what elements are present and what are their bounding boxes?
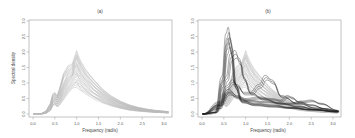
y-tick-label: 2.0: [21, 48, 26, 54]
x-tick-label: 1.0: [74, 121, 80, 126]
y-tick-label: 1.0: [21, 79, 26, 85]
panel-a-title: (a): [97, 9, 103, 14]
x-tick-label: 0.0: [30, 121, 36, 126]
y-tick-label: 3.0: [21, 17, 26, 23]
panel-b-title: (b): [265, 9, 271, 14]
x-tick-label: 2.5: [308, 121, 314, 126]
x-tick-label: 0.5: [52, 121, 58, 126]
x-tick-label: 2.0: [287, 121, 293, 126]
x-tick-label: 2.0: [118, 121, 124, 126]
panel-b-y-axis: 0.00.51.01.52.02.53.0: [190, 17, 199, 116]
x-tick-label: 1.0: [243, 121, 249, 126]
y-tick-label: 2.0: [190, 48, 195, 54]
panel-b: (b) 0.00.51.01.52.02.53.0 0.00.51.01.52.…: [190, 9, 342, 133]
y-tick-label: 2.5: [190, 33, 195, 39]
y-tick-label: 3.0: [190, 17, 195, 23]
panel-b-x-axis: 0.00.51.01.52.02.53.0: [199, 117, 336, 126]
panel-a: (a) 0.00.51.01.52.02.53.0 0.00.51.01.52.…: [11, 9, 172, 133]
y-tick-label: 0.0: [21, 110, 26, 116]
y-tick-label: 1.0: [190, 79, 195, 85]
figure: (a) 0.00.51.01.52.02.53.0 0.00.51.01.52.…: [0, 0, 355, 138]
x-tick-label: 3.0: [330, 121, 336, 126]
y-tick-label: 0.5: [21, 95, 26, 101]
x-tick-label: 0.5: [221, 121, 227, 126]
panel-a-curves: [33, 50, 168, 114]
panel-a-ylabel: Spectral density: [11, 51, 16, 84]
chart-canvas: (a) 0.00.51.01.52.02.53.0 0.00.51.01.52.…: [0, 0, 355, 138]
y-tick-label: 0.0: [190, 110, 195, 116]
x-tick-label: 1.5: [96, 121, 102, 126]
x-tick-label: 3.0: [161, 121, 167, 126]
panel-a-frame: [29, 20, 172, 117]
y-tick-label: 2.5: [21, 33, 26, 39]
x-tick-label: 0.0: [199, 121, 205, 126]
y-tick-label: 0.5: [190, 95, 195, 101]
x-tick-label: 2.5: [139, 121, 145, 126]
panel-a-xlabel: Frequency (rad/s): [82, 128, 118, 133]
x-tick-label: 1.5: [265, 121, 271, 126]
y-tick-label: 1.5: [21, 64, 26, 70]
gray-spectrum-curve: [33, 68, 168, 114]
panel-a-y-axis: 0.00.51.01.52.02.53.0: [21, 17, 30, 116]
gray-spectrum-curve: [33, 63, 168, 114]
panel-a-x-axis: 0.00.51.01.52.02.53.0: [30, 117, 167, 126]
y-tick-label: 1.5: [190, 64, 195, 70]
panel-b-xlabel: Frequency (rad/s): [250, 128, 286, 133]
gray-spectrum-curve: [33, 63, 168, 114]
